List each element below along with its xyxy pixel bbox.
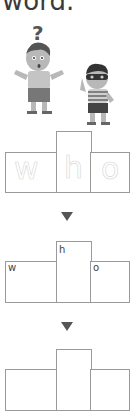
question-mark-icon: ?	[32, 21, 44, 45]
down-arrow-icon	[61, 322, 73, 331]
word-shape-partial: w h o	[5, 241, 130, 303]
down-arrow-icon	[61, 212, 73, 221]
traced-letter: w	[14, 151, 39, 186]
letter-label: o	[93, 262, 99, 273]
traced-letter: h	[64, 150, 83, 185]
letter-box-3	[90, 369, 130, 411]
letter-box-1	[5, 369, 58, 411]
letter-label: w	[8, 262, 16, 273]
word-shape-traced: w h o	[5, 131, 130, 193]
illustration: ?	[0, 18, 135, 130]
traced-letter: o	[101, 151, 119, 186]
heading-text: word.	[2, 0, 74, 16]
letter-box-2	[56, 349, 92, 411]
masked-boy-figure	[80, 64, 114, 125]
letter-box-w: w	[5, 261, 58, 303]
word-shape-empty	[5, 349, 130, 411]
letter-box-o: o	[90, 261, 130, 303]
confused-boy-figure	[14, 42, 64, 114]
letter-box-o: o	[90, 152, 130, 193]
letter-box-w: w	[5, 152, 58, 193]
letter-label: h	[59, 244, 65, 255]
letter-box-h: h	[56, 241, 92, 303]
letter-box-h: h	[56, 131, 92, 193]
